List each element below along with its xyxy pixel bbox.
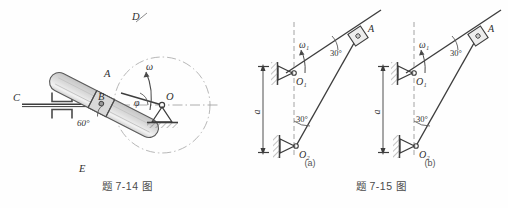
crank-O2A-a: [296, 36, 358, 146]
label-angle-30-lower-a: 30°: [296, 114, 308, 124]
variant-a-group: A O₁ O₂ ω₁ 30° 30° a: [254, 10, 381, 160]
label-angle-30-upper-b: 30°: [450, 48, 462, 58]
figure-7-15-drawing: A O₁ O₂ ω₁ 30° 30° a: [254, 0, 508, 208]
fixed-support-O: [147, 102, 178, 128]
label-omega1-a: ω₁: [299, 40, 309, 50]
dimension-a-arrow-b: [378, 64, 389, 155]
label-omega1-b: ω₁: [419, 40, 429, 50]
caption-figure-7-14: 题 7-14 图: [0, 178, 254, 193]
angular-velocity-arrow: [144, 72, 152, 110]
caption-figure-7-15: 题 7-15 图: [254, 178, 508, 193]
label-A-a: A: [367, 23, 375, 34]
crank-O2A-b: [416, 36, 478, 146]
label-C: C: [13, 92, 21, 103]
variant-b-group: A O₁ O₂ ω₁ 30° 30° a: [371, 10, 501, 160]
label-dimension-a-b: a: [371, 110, 382, 115]
label-O1-a: O₁: [296, 76, 307, 87]
fixed-support-O1-b: [391, 62, 416, 85]
label-dimension-a: a: [254, 110, 262, 115]
label-O: O: [166, 91, 174, 102]
sublabel-a: (a): [290, 158, 330, 168]
slider-block-a: [348, 26, 368, 46]
dimension-a-arrow: [258, 64, 269, 155]
slider-block-b: [468, 26, 488, 46]
label-O1-b: O₁: [416, 76, 427, 87]
figure-7-14-drawing: C B A D E O ω φ 60°: [0, 0, 254, 208]
crank-OA: [121, 93, 162, 105]
fixed-support-O1-a: [271, 62, 296, 85]
fixed-support-O2-a: [273, 135, 298, 158]
label-A-b: A: [487, 23, 495, 34]
label-omega: ω: [146, 61, 153, 72]
label-phi: φ: [134, 97, 140, 108]
figure-sheet: C B A D E O ω φ 60°: [0, 0, 508, 208]
label-D: D: [131, 11, 140, 22]
label-angle-30-lower-b: 30°: [416, 114, 428, 124]
figure-7-15-panel: A O₁ O₂ ω₁ 30° 30° a: [254, 0, 508, 208]
guide-bracket-lower: [52, 110, 72, 119]
label-angle-30-upper-a: 30°: [330, 48, 342, 58]
label-A: A: [103, 68, 111, 79]
label-angle-60: 60°: [77, 118, 90, 128]
figure-7-14-panel: C B A D E O ω φ 60°: [0, 0, 254, 208]
label-B: B: [98, 91, 105, 102]
label-E: E: [78, 163, 86, 174]
sublabel-b: (b): [410, 158, 450, 168]
fixed-support-O2-b: [393, 135, 418, 158]
